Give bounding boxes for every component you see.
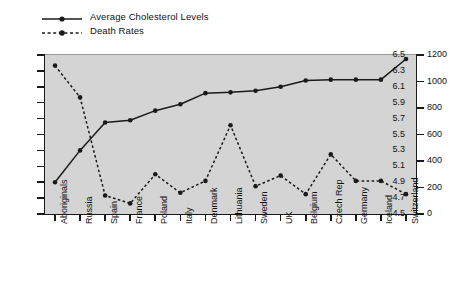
legend-entry-cholesterol: Average Cholesterol Levels [40,10,300,24]
data-point-marker [253,184,258,189]
x-axis-tick [405,214,407,221]
data-point-marker [53,63,58,68]
right-axis-tick-label: 800 [427,102,455,112]
x-axis-category-label: Sweden [259,191,269,224]
legend-swatch-dashed-line-icon [40,25,84,37]
x-axis-tick [54,214,56,221]
chart-legend: Average Cholesterol Levels Death Rates [40,10,300,38]
left-axis-tick [37,70,45,72]
x-axis-tick [355,214,357,221]
right-axis-tick [416,107,424,109]
data-point-marker [128,201,133,206]
left-axis-tick-label: 5.7 [371,113,405,123]
left-axis-tick [37,197,45,199]
x-axis-category-label: Denmark [209,187,219,224]
x-axis-tick [255,214,257,221]
data-point-marker [328,152,333,157]
left-axis-tick [37,181,45,183]
right-axis-tick-label: 1000 [427,76,455,86]
right-axis-tick-label: 1200 [427,49,455,59]
data-point-marker [128,118,133,123]
data-point-marker [53,180,58,185]
right-axis-tick [416,160,424,162]
data-point-marker [153,172,158,177]
x-axis-tick [380,214,382,221]
left-axis-tick [37,134,45,136]
legend-entry-death-rates: Death Rates [40,24,300,38]
right-axis-tick-label: 0 [427,208,455,218]
data-point-marker [253,88,258,93]
right-axis-tick-label: 200 [427,182,455,192]
left-axis-tick [37,102,45,104]
data-point-marker [153,108,158,113]
x-axis-category-label: France [134,196,144,224]
x-axis-category-label: Poland [159,196,169,224]
data-point-marker [228,123,233,128]
data-point-marker [354,179,359,184]
left-axis-tick [37,118,45,120]
data-point-marker [203,179,208,184]
right-axis-tick-label: 400 [427,155,455,165]
data-point-marker [78,95,83,100]
x-axis-category-label: Aboriginals [59,179,69,224]
left-axis-tick-label: 5.1 [371,160,405,170]
data-point-marker [278,173,283,178]
left-axis-tick [37,86,45,88]
x-axis-tick [129,214,131,221]
left-axis-tick-label: 6.3 [371,65,405,75]
left-axis-tick-label: 5.5 [371,129,405,139]
x-axis-tick [104,214,106,221]
data-point-marker [303,78,308,83]
left-axis-tick-label: 5.3 [371,144,405,154]
left-axis-tick-label: 6.1 [371,81,405,91]
x-axis-tick [205,214,207,221]
x-axis-category-label: Iceland [384,195,394,224]
data-point-marker [354,77,359,82]
legend-label-cholesterol: Average Cholesterol Levels [90,11,209,23]
left-axis-tick-label: 5.9 [371,97,405,107]
x-axis-tick [79,214,81,221]
right-axis-tick [416,81,424,83]
x-axis-category-label: Germany [359,187,369,224]
right-axis-tick [416,54,424,56]
x-axis-category-label: Belgium [309,191,319,224]
left-axis-tick [37,166,45,168]
x-axis-category-label: Lithuania [234,187,244,224]
left-axis-tick-label: 4.9 [371,176,405,186]
x-axis-tick [305,214,307,221]
x-axis-category-label: UK [284,211,294,224]
left-axis-tick [37,150,45,152]
data-point-marker [78,148,83,153]
x-axis-category-label: Italy [184,207,194,224]
data-point-marker [228,90,233,95]
data-point-marker [103,120,108,125]
left-axis-tick [37,54,45,56]
series-line [55,66,406,204]
data-point-marker [178,102,183,107]
x-axis-tick [180,214,182,221]
legend-label-death-rates: Death Rates [90,25,144,37]
x-axis-tick [154,214,156,221]
x-axis-tick [330,214,332,221]
data-point-marker [203,91,208,96]
data-point-marker [103,193,108,198]
x-axis-tick [230,214,232,221]
x-axis-category-label: Switzerland [410,177,420,224]
data-point-marker [328,77,333,82]
x-axis-tick [280,214,282,221]
x-axis-category-label: Russia [84,196,94,224]
x-axis-category-label: Czech Rep [334,179,344,224]
cholesterol-vs-death-rates-chart: Average Cholesterol Levels Death Rates 6… [0,0,455,295]
data-point-marker [278,85,283,90]
right-axis-tick-label: 600 [427,129,455,139]
right-axis-tick [416,134,424,136]
data-point-marker [178,191,183,196]
plot-area: 6.56.36.15.95.75.55.35.14.94.74.51200100… [44,54,417,215]
legend-swatch-solid-line-icon [40,11,84,23]
data-point-marker [303,192,308,197]
left-axis-tick [37,213,45,215]
x-axis-category-label: Spain [109,201,119,224]
series-line [55,59,406,182]
left-axis-tick-label: 6.5 [371,49,405,59]
